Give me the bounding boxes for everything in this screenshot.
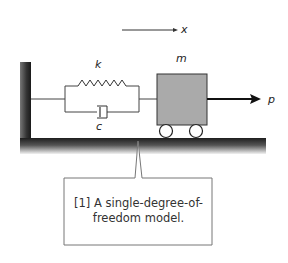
mass-block [157,74,207,125]
force-label: p [267,93,275,106]
wheel-left [160,125,173,138]
damper [97,106,107,118]
stiffness-label: k [95,58,102,71]
callout-line-1: [1] A single-degree-of- [64,196,213,211]
callout-caption: [1] A single-degree-of- freedom model. [64,196,213,226]
callout-box [64,141,212,245]
frame-right [107,86,139,112]
displacement-arrow [122,28,178,32]
force-arrow [207,94,261,104]
wheel-right [190,125,203,138]
callout-line-2: freedom model. [64,211,213,226]
fixed-wall [20,62,31,140]
frame-left [65,86,97,112]
mass-label: m [176,52,187,65]
damping-label: c [96,120,102,133]
ground [20,138,266,154]
spring [78,80,126,86]
displacement-label: x [180,23,188,36]
